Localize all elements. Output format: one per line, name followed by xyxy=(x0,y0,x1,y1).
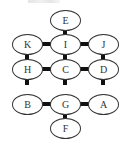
node-h: H xyxy=(12,59,43,80)
node-c: C xyxy=(50,59,81,80)
node-label: I xyxy=(64,39,67,50)
node-b: B xyxy=(12,94,43,115)
node-f: F xyxy=(50,118,81,139)
node-g: G xyxy=(50,94,81,115)
node-e: E xyxy=(50,10,81,31)
node-label: E xyxy=(62,15,68,26)
node-label: H xyxy=(24,64,31,75)
node-label: A xyxy=(100,99,107,110)
node-j: J xyxy=(88,34,119,55)
node-label: G xyxy=(62,99,69,110)
node-label: D xyxy=(100,64,107,75)
node-label: F xyxy=(63,123,69,134)
node-label: J xyxy=(102,39,106,50)
node-a: A xyxy=(88,94,119,115)
node-d: D xyxy=(88,59,119,80)
node-k: K xyxy=(12,34,43,55)
node-label: C xyxy=(62,64,69,75)
node-label: K xyxy=(24,39,31,50)
node-i: I xyxy=(50,34,81,55)
node-label: B xyxy=(24,99,31,110)
graph-diagram: E K I J H C D B G A F xyxy=(0,0,130,149)
